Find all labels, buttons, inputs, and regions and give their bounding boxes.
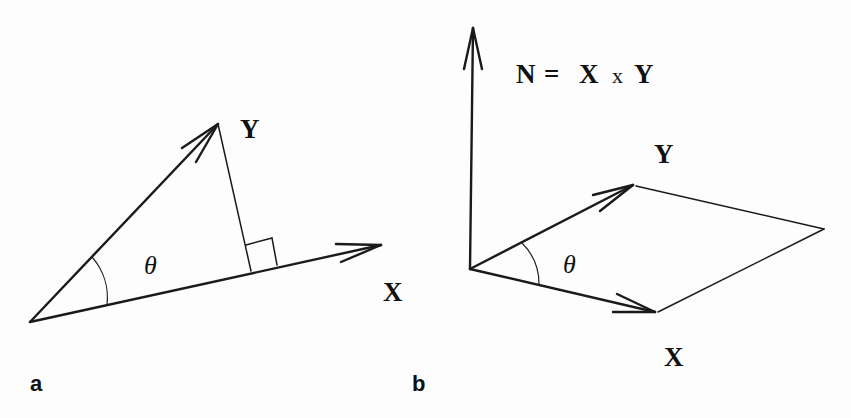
panel-b-label-x-left: X	[383, 277, 403, 307]
panel-b-label-y: Y	[654, 139, 674, 169]
panel-b-y-arrowhead-icon	[593, 185, 633, 211]
parallelogram-edge-right	[658, 229, 824, 312]
equation-n: N	[516, 59, 536, 89]
panel-b: N = X x Y Y X X θ b	[383, 28, 824, 396]
panel-a-letter: a	[30, 371, 43, 396]
panel-a-x-vector	[30, 245, 381, 322]
equation-equals: =	[544, 59, 559, 89]
panel-a-angle-arc	[92, 257, 107, 305]
panel-a-label-theta: θ	[144, 251, 157, 280]
panel-b-angle-arc	[522, 243, 539, 285]
panel-a-y-vector	[30, 124, 218, 322]
equation-x: X	[579, 59, 599, 89]
panel-b-letter: b	[412, 371, 425, 396]
panel-b-label-theta: θ	[563, 250, 576, 279]
right-angle-icon	[246, 238, 277, 265]
panel-a-label-y: Y	[240, 114, 260, 144]
panel-a: Y θ a	[30, 114, 381, 396]
panel-b-label-x-bottom: X	[664, 342, 684, 372]
vector-product-figure: Y θ a	[0, 0, 851, 418]
equation-times: x	[612, 63, 623, 88]
equation-y: Y	[634, 59, 654, 89]
cross-product-equation: N = X x Y	[516, 59, 654, 89]
panel-b-n-vector	[470, 28, 473, 269]
diagram-canvas: Y θ a	[0, 0, 851, 418]
parallelogram-edge-top	[636, 186, 824, 229]
panel-a-perpendicular	[218, 124, 251, 271]
panel-b-y-vector	[470, 185, 633, 269]
